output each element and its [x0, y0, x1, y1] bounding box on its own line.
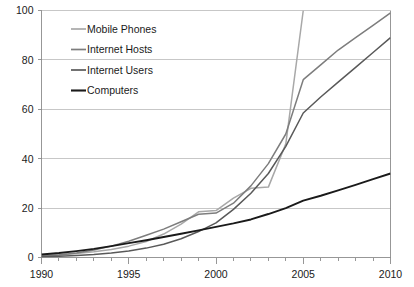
legend-label-computers: Computers [87, 84, 138, 96]
y-axis-label-0: 0 [28, 251, 34, 263]
legend-label-internet-hosts: Internet Hosts [87, 43, 152, 55]
series-line-mobile-phones [42, 11, 304, 256]
y-axis-label-60: 60 [22, 103, 34, 115]
chart-canvas: 020406080100 19901995200020052010 Mobile… [0, 0, 414, 287]
y-axis-tick-labels: 020406080100 [16, 4, 34, 263]
x-axis-label-2010: 2010 [379, 268, 403, 280]
gridlines-group [42, 11, 391, 209]
y-axis-label-80: 80 [22, 54, 34, 66]
y-axis-label-40: 40 [22, 153, 34, 165]
y-axis-label-20: 20 [22, 202, 34, 214]
x-axis-label-2005: 2005 [292, 268, 316, 280]
line-chart-figure: 020406080100 19901995200020052010 Mobile… [0, 0, 414, 287]
x-axis-label-2000: 2000 [204, 268, 228, 280]
x-axis-label-1995: 1995 [117, 268, 141, 280]
legend-label-mobile-phones: Mobile Phones [87, 23, 156, 35]
x-tick-marks-group [42, 258, 391, 264]
y-axis-label-100: 100 [16, 4, 34, 16]
x-axis-tick-labels: 19901995200020052010 [30, 268, 403, 280]
legend-label-internet-users: Internet Users [87, 64, 153, 76]
y-tick-marks-group [38, 11, 42, 258]
series-line-computers [42, 174, 391, 255]
x-axis-label-1990: 1990 [30, 268, 54, 280]
